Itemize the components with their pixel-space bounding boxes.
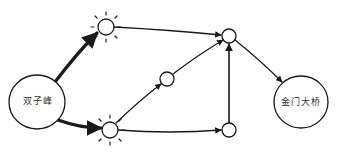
graph-diagram: [0, 0, 346, 153]
node-top-right[interactable]: [222, 29, 236, 43]
edge-twin-peaks-to-sun-top: [55, 33, 97, 82]
node-label-twin-peaks: 双子峰: [23, 94, 53, 107]
node-label-golden-gate: 金门大桥: [281, 95, 321, 108]
edge-mid-to-top-right: [173, 40, 223, 74]
node-sun-bottom[interactable]: [102, 122, 118, 138]
edge-top-right-to-golden-gate: [235, 40, 282, 82]
edge-sun-bottom-to-bottom-right: [118, 130, 221, 132]
node-sun-top[interactable]: [98, 19, 114, 35]
edge-sun-bottom-to-mid: [116, 84, 161, 123]
node-mid[interactable]: [160, 72, 174, 86]
edge-sun-top-to-top-right: [114, 27, 221, 35]
node-bottom-right[interactable]: [222, 123, 236, 137]
edge-twin-peaks-to-sun-bottom: [58, 120, 101, 128]
